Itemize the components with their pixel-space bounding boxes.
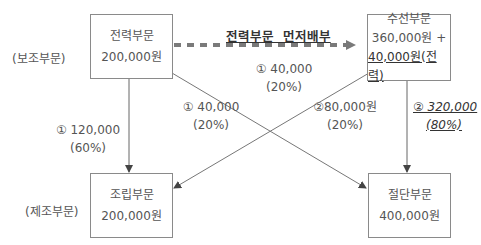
flow-power-to-cutting-amount: ① 40,000 (181, 98, 241, 116)
flow-power-to-cutting-label: ① 40,000 (20%) (181, 98, 241, 134)
box-cutting-amount: 400,000원 (379, 206, 440, 227)
flow-power-to-assembly-pct: (60%) (53, 139, 123, 157)
box-repair-amount: 360,000원 + (372, 29, 447, 48)
box-assembly-amount: 200,000원 (101, 206, 162, 227)
group-label-support: (보조부문) (12, 49, 65, 66)
box-cutting: 절단부문 400,000원 (368, 173, 451, 238)
box-power-name: 전력부문 (110, 26, 154, 47)
box-repair: 수선부문 360,000원 + 40,000원(전력) (367, 14, 451, 81)
flow-power-to-assembly-amount: ① 120,000 (53, 121, 123, 139)
box-power: 전력부문 200,000원 (90, 14, 173, 79)
flow-power-to-repair-pct: (20%) (251, 78, 317, 96)
flow-repair-to-assembly-amount: ②80,000원 (313, 98, 377, 116)
flow-repair-to-assembly-label: ②80,000원 (20%) (313, 98, 377, 134)
flow-repair-to-cutting-amount: ② 320,000 (413, 98, 475, 116)
group-label-production: (제조부문) (25, 202, 78, 219)
flow-power-to-assembly-label: ① 120,000 (60%) (53, 121, 123, 157)
flow-power-to-repair-amount: ① 40,000 (251, 60, 317, 78)
box-assembly: 조립부문 200,000원 (90, 173, 173, 238)
priority-label: 전력부문 먼저배부 (226, 26, 331, 45)
flow-repair-to-cutting-label: ② 320,000 (80%) (413, 98, 475, 134)
box-assembly-name: 조립부문 (110, 185, 154, 206)
flow-power-to-repair-label: ① 40,000 (20%) (251, 60, 317, 96)
box-cutting-name: 절단부문 (388, 185, 432, 206)
box-repair-name: 수선부문 (387, 10, 431, 29)
flow-repair-to-cutting-pct: (80%) (413, 116, 475, 134)
flow-repair-to-assembly-pct: (20%) (313, 116, 377, 134)
flow-power-to-cutting-pct: (20%) (181, 116, 241, 134)
box-power-amount: 200,000원 (101, 47, 162, 68)
box-repair-allocated: 40,000원(전력) (368, 48, 450, 86)
